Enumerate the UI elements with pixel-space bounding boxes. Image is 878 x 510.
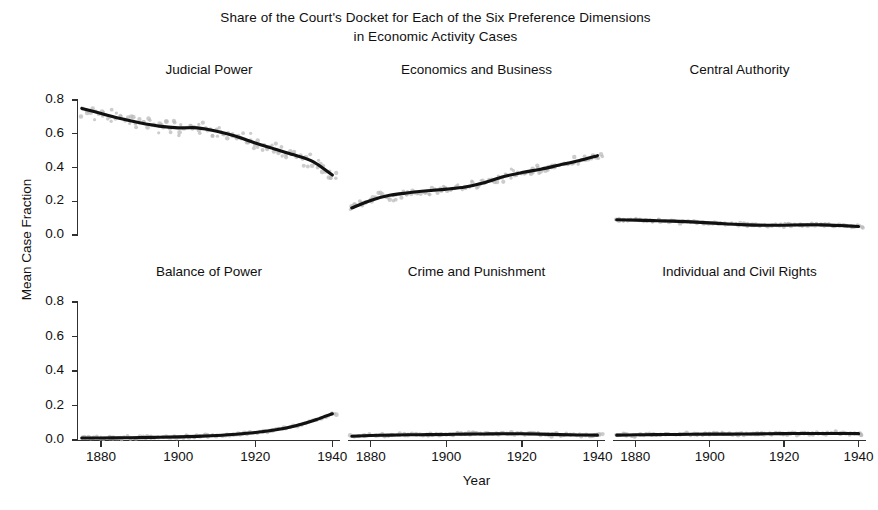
data-point	[211, 134, 215, 138]
y-tick-label: 0.4	[30, 159, 64, 174]
panel-title: Central Authority	[540, 62, 878, 77]
data-point	[169, 130, 173, 134]
data-point	[129, 114, 134, 119]
data-point	[470, 179, 473, 182]
panel-title: Individual and Civil Rights	[540, 264, 878, 279]
y-tick-label: 0.6	[30, 328, 64, 343]
data-point	[179, 123, 182, 126]
trend-line	[82, 108, 332, 175]
data-point	[308, 152, 312, 156]
data-point	[281, 154, 284, 157]
data-point	[378, 191, 382, 195]
data-point	[334, 412, 339, 417]
data-point	[177, 134, 181, 138]
panel-central-authority	[614, 217, 865, 230]
x-tick-label: 1900	[154, 449, 202, 464]
data-point	[137, 117, 141, 121]
data-point	[274, 141, 278, 145]
data-point	[512, 169, 515, 172]
data-point	[394, 198, 398, 202]
y-tick-label: 0.6	[30, 125, 64, 140]
data-point	[217, 126, 220, 129]
data-point	[148, 118, 152, 122]
data-point	[456, 183, 459, 186]
trend-line	[352, 434, 598, 436]
x-tick-label: 1940	[835, 449, 878, 464]
y-tick-label: 0.8	[30, 91, 64, 106]
data-point	[601, 155, 604, 158]
data-point	[164, 119, 169, 124]
y-tick-label: 0.0	[30, 226, 64, 241]
panel-crime-and-punishment	[348, 430, 605, 439]
data-point	[134, 125, 138, 129]
data-point	[115, 111, 118, 114]
panel-economics-and-business	[349, 152, 604, 211]
data-point	[280, 145, 284, 149]
x-tick-label: 1900	[686, 449, 734, 464]
data-point	[252, 146, 256, 150]
data-point	[157, 131, 160, 134]
x-tick-label: 1920	[760, 449, 808, 464]
data-point	[537, 171, 541, 175]
data-point	[334, 171, 338, 175]
data-point	[535, 163, 539, 167]
y-tick-label: 0.0	[30, 431, 64, 446]
panel-balance-of-power	[80, 411, 339, 441]
data-point	[306, 165, 310, 169]
x-tick-label: 1880	[77, 449, 125, 464]
x-tick-label: 1880	[611, 449, 659, 464]
data-point	[197, 123, 200, 126]
y-tick-label: 0.8	[30, 293, 64, 308]
trend-line	[617, 433, 859, 435]
data-point	[241, 131, 245, 135]
data-point	[79, 114, 83, 118]
x-tick-label: 1920	[498, 449, 546, 464]
data-point	[173, 121, 177, 125]
data-point	[201, 121, 205, 125]
data-point	[572, 155, 576, 159]
data-point	[310, 164, 315, 169]
data-point	[501, 180, 505, 184]
data-point	[93, 118, 96, 121]
data-point	[249, 132, 252, 135]
data-point	[317, 159, 320, 162]
x-tick-label: 1880	[347, 449, 395, 464]
data-point	[509, 176, 512, 179]
data-point	[334, 176, 338, 180]
y-tick-label: 0.2	[30, 192, 64, 207]
data-point	[399, 196, 403, 200]
y-tick-label: 0.4	[30, 362, 64, 377]
panel-individual-and-civil-rights	[614, 429, 863, 439]
y-tick-label: 0.2	[30, 397, 64, 412]
data-point	[109, 120, 112, 123]
data-point	[428, 193, 432, 197]
data-point	[110, 108, 114, 112]
data-point	[216, 135, 219, 138]
data-point	[198, 131, 202, 135]
data-point	[387, 197, 392, 202]
data-point	[329, 177, 333, 181]
data-point	[225, 136, 230, 141]
data-point	[302, 164, 306, 168]
x-tick-label: 1920	[231, 449, 279, 464]
panel-judicial-power	[79, 106, 339, 180]
x-tick-label: 1900	[422, 449, 470, 464]
data-point	[261, 148, 265, 152]
data-point	[861, 226, 865, 230]
